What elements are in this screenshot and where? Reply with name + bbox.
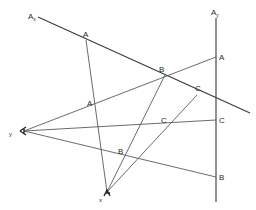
- ray-x-to-a: [86, 40, 107, 192]
- perspective-diagram: Ax Ay y x A B C A C B A C B: [0, 0, 256, 210]
- axis-ax-line: [38, 17, 250, 113]
- eye-x-label: x: [99, 197, 102, 203]
- eye-y-label: y: [9, 131, 12, 137]
- ray-y-to-c: [24, 120, 216, 131]
- ay-point-b-label: B: [219, 173, 224, 182]
- intersection-a-label: A: [87, 99, 93, 108]
- ax-point-b-label: B: [159, 65, 164, 74]
- ax-point-c-label: C: [195, 84, 201, 93]
- intersection-b-label: B: [118, 147, 123, 156]
- ray-y-to-a: [24, 57, 216, 131]
- ray-x-to-b: [107, 75, 165, 192]
- axis-ay-label: Ay: [211, 8, 219, 18]
- eye-x-icon: [104, 190, 110, 196]
- ay-point-c-label: C: [219, 116, 225, 125]
- ray-x-to-c: [107, 95, 197, 192]
- axis-ax-label: Ax: [28, 12, 36, 22]
- intersection-c-label: C: [161, 116, 167, 125]
- ax-point-a-label: A: [83, 30, 89, 39]
- ay-point-a-label: A: [219, 53, 225, 62]
